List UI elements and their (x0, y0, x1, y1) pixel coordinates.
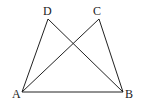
segment-bc (99, 19, 123, 92)
segment-bd (48, 19, 123, 92)
label-b: B (125, 87, 133, 101)
segment-ad (22, 19, 48, 92)
label-d: D (43, 4, 52, 18)
label-a: A (12, 87, 21, 101)
geometry-diagram: D C A B (0, 0, 142, 106)
segment-ac (22, 19, 99, 92)
label-c: C (93, 4, 101, 18)
